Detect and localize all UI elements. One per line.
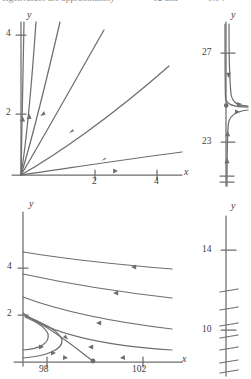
arrowhead-left-2 (113, 291, 118, 296)
panel-top-right: y 27 23 (190, 8, 251, 188)
seg-1 (220, 289, 238, 292)
panel-top-left-svg (0, 8, 190, 188)
y-tick-label-4: 4 (6, 28, 11, 38)
trajectory-b1 (23, 252, 172, 269)
y-axis-label: y (231, 9, 235, 20)
x-tick-label-2: 2 (92, 176, 97, 186)
trajectory-right-3 (227, 110, 248, 186)
arrowhead-axis (113, 168, 118, 173)
seg-3 (220, 323, 238, 326)
x-tick-label-98: 98 (39, 364, 49, 374)
arrowhead-left-1 (235, 109, 240, 114)
panel-bottom-left: y 4 2 98 102 x (0, 190, 190, 379)
figure-page: eigenvalues are approximately -12 and -0… (0, 0, 251, 379)
arrowhead-3 (40, 111, 45, 116)
x-axis-label: x (182, 353, 186, 364)
equilibrium-dot (224, 103, 229, 108)
trajectory-6 (21, 152, 182, 175)
trajectory-b5 (23, 317, 48, 350)
trajectory-3 (21, 22, 60, 175)
caption-part-2: -12 and (150, 0, 178, 3)
y-tick-label-2: 2 (7, 308, 12, 318)
y-tick-label-27: 27 (202, 47, 212, 57)
seg-7 (220, 370, 238, 373)
y-tick-label-14: 14 (202, 244, 212, 254)
arrowhead-5 (105, 135, 110, 138)
panel-bottom-right: y 14 10 (190, 190, 251, 379)
y-axis-label: y (29, 198, 33, 209)
arrowhead-up-2 (224, 158, 229, 163)
seg-6 (220, 360, 238, 363)
y-tick-label-10: 10 (202, 324, 212, 334)
trajectory-5 (21, 66, 169, 175)
trajectory-b6 (23, 316, 62, 358)
node-dot (91, 359, 96, 364)
bottom-left-arrowheads (39, 265, 136, 364)
caption-part-3: -0.04 (205, 0, 224, 3)
y-axis-label: y (27, 9, 31, 20)
x-tick-label-4: 4 (154, 176, 159, 186)
trajectory-right-1 (229, 24, 248, 106)
y-tick-label-2: 2 (6, 107, 11, 117)
panel-bottom-left-svg (0, 190, 190, 379)
seg-5 (220, 347, 238, 350)
arrowhead-axis-right (63, 355, 68, 360)
x-tick-label-102: 102 (132, 364, 146, 374)
x-axis-label: x (184, 166, 188, 177)
arrowhead-left-3 (96, 321, 101, 326)
trajectory-b4 (23, 313, 172, 350)
y-axis-label: y (231, 200, 235, 211)
seg-2 (220, 307, 238, 310)
y-tick-label-23: 23 (202, 136, 212, 146)
seg-4 (220, 335, 238, 338)
panel-bottom-right-svg (190, 190, 251, 379)
trajectory-b2 (23, 274, 172, 298)
arrowhead-left-4 (88, 345, 93, 350)
arrowhead-6 (101, 157, 106, 161)
panel-top-left: y 4 2 2 4 x (0, 8, 190, 188)
caption-part-1: eigenvalues are approximately (2, 0, 115, 3)
panel-top-right-svg (190, 8, 251, 188)
arrowhead-4 (69, 129, 74, 133)
y-tick-label-4: 4 (7, 261, 12, 271)
arrowhead-axis-left (120, 355, 125, 360)
